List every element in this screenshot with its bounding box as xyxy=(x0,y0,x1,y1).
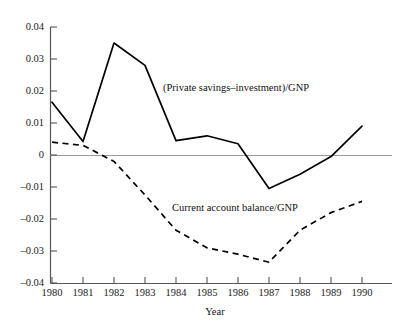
axis-lines xyxy=(51,27,393,284)
chart-plot-area xyxy=(0,0,419,333)
series-private-savings-investment-line xyxy=(52,43,362,189)
y-tick-label: –0.03 xyxy=(0,245,44,256)
y-tick-label: 0 xyxy=(0,149,44,160)
y-tick-label: 0.03 xyxy=(0,53,44,64)
series-label-private-savings-investment: (Private savings–investment)/GNP xyxy=(163,82,309,94)
y-tick-label: 0.02 xyxy=(0,85,44,96)
y-tick-label: –0.01 xyxy=(0,181,44,192)
x-tick-label: 1990 xyxy=(340,287,384,298)
y-tick-label: 0.01 xyxy=(0,117,44,128)
x-axis-title: Year xyxy=(185,306,245,318)
chart-figure: 0.040.030.020.010–0.01–0.02–0.03–0.04 19… xyxy=(0,0,419,333)
y-tick-label: 0.04 xyxy=(0,21,44,32)
series-label-current-account-balance: Current account balance/GNP xyxy=(172,202,298,214)
y-axis-ticks xyxy=(51,27,58,283)
x-axis-ticks xyxy=(52,277,362,284)
y-tick-label: –0.02 xyxy=(0,213,44,224)
